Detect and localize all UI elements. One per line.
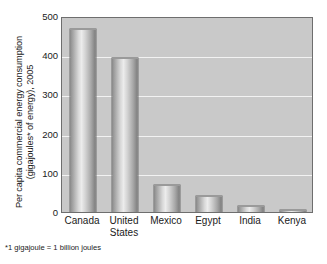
bar-cap <box>154 184 181 186</box>
y-axis-tick-label: 0 <box>32 208 58 218</box>
chart-footnote: *1 gigajoule = 1 billion joules <box>5 243 101 252</box>
plot-area <box>61 17 313 213</box>
y-axis-title-line-1: Per capita commercial energy consumption <box>14 20 25 225</box>
energy-consumption-bar-chart: Per capita commercial energy consumption… <box>0 0 327 264</box>
bars-layer <box>62 18 312 212</box>
y-axis-tick-label: 400 <box>32 51 58 61</box>
x-axis-tick-label: United States <box>103 215 145 238</box>
x-axis-tick-label: Mexico <box>145 215 187 227</box>
bar-slot <box>230 18 272 212</box>
bar[interactable] <box>70 29 97 212</box>
bar-slot <box>272 18 313 212</box>
bar[interactable] <box>196 196 223 212</box>
bar-cap <box>238 205 265 207</box>
x-axis-tick-labels: CanadaUnited StatesMexicoEgyptIndiaKenya <box>61 215 313 245</box>
bar-slot <box>188 18 230 212</box>
bar[interactable] <box>154 185 181 212</box>
y-axis-tick-labels: 0100200300400500 <box>32 12 58 218</box>
bar[interactable] <box>238 206 265 212</box>
y-axis-tick-label: 500 <box>32 12 58 22</box>
bar-slot <box>146 18 188 212</box>
bar-cap <box>196 195 223 197</box>
y-axis-tick-label: 200 <box>32 130 58 140</box>
x-axis-tick-label: Canada <box>61 215 103 227</box>
x-axis-tick-label: Kenya <box>271 215 313 227</box>
bar-cap <box>112 57 139 59</box>
y-axis-tick-label: 100 <box>32 169 58 179</box>
bar-slot <box>62 18 104 212</box>
bar-slot <box>104 18 146 212</box>
bar[interactable] <box>112 58 139 212</box>
x-axis-tick-label: India <box>229 215 271 227</box>
bar-cap <box>70 28 97 30</box>
x-axis-tick-label: Egypt <box>187 215 229 227</box>
bar[interactable] <box>280 210 307 212</box>
bar-cap <box>280 209 307 211</box>
y-axis-tick-label: 300 <box>32 90 58 100</box>
